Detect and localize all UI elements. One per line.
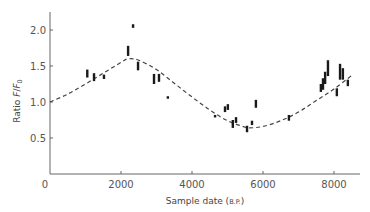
- data-point: [246, 126, 248, 132]
- data-point: [288, 115, 290, 121]
- x-tick-label: 2000: [108, 179, 133, 190]
- data-point: [251, 121, 253, 125]
- x-axis-title: Sample date (B.P.): [166, 196, 244, 206]
- data-point: [132, 24, 134, 28]
- chart: 0.51.01.52.0 02000400060008000 Ratio F/F…: [0, 0, 370, 212]
- x-tick-label: 6000: [250, 179, 275, 190]
- data-point: [158, 74, 160, 82]
- y-tick-label: 0.5: [30, 133, 46, 144]
- data-point: [167, 96, 169, 99]
- data-point: [232, 120, 234, 128]
- data-point: [214, 115, 216, 118]
- data-point: [322, 78, 324, 90]
- y-tick-label: 2.0: [30, 25, 46, 36]
- data-point: [137, 62, 139, 71]
- y-tick-label: 1.0: [30, 97, 46, 108]
- data-point: [93, 73, 95, 81]
- x-tick-label: 8000: [321, 179, 346, 190]
- x-tick-label: 0: [42, 179, 48, 190]
- data-point: [324, 72, 326, 84]
- data-point: [347, 80, 349, 86]
- data-point: [336, 88, 338, 96]
- data-point: [127, 46, 129, 56]
- x-axis-title-text: Sample date: [166, 196, 223, 206]
- data-point: [320, 84, 322, 92]
- data-point: [227, 104, 229, 110]
- data-point: [86, 70, 88, 78]
- data-point: [255, 100, 257, 108]
- data-point: [224, 106, 226, 112]
- y-axis-title-text: Ratio: [12, 97, 22, 123]
- data-points: [86, 24, 349, 132]
- data-point: [342, 68, 344, 80]
- data-point: [235, 117, 237, 123]
- fitted-curve: [50, 59, 352, 128]
- axes: [50, 12, 360, 174]
- data-point: [339, 64, 341, 80]
- data-point: [327, 60, 329, 76]
- data-point: [153, 74, 155, 84]
- x-tick-label: 4000: [179, 179, 204, 190]
- x-axis-unit: B.P.: [229, 198, 241, 206]
- data-point: [103, 75, 105, 79]
- y-tick-label: 1.5: [30, 61, 46, 72]
- y-axis-title: Ratio F/F0: [12, 79, 24, 123]
